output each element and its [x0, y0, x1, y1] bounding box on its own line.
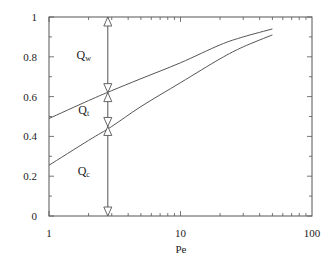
- tick-labels: 11010000.20.40.60.81: [23, 11, 321, 239]
- x-tick-label: 1: [46, 227, 52, 239]
- arrow-down-icon: [104, 207, 112, 216]
- y-tick-label: 0.2: [23, 170, 37, 182]
- y-tick-label: 0.4: [23, 130, 37, 142]
- annotation-labels: QwQtQc: [77, 48, 92, 179]
- annotation-qt: Qt: [78, 103, 90, 118]
- y-tick-label: 0: [32, 210, 38, 222]
- x-axis-label: Pe: [176, 243, 187, 255]
- arrow-down-icon: [104, 117, 112, 126]
- y-tick-label: 0.8: [23, 51, 37, 63]
- x-tick-label: 10: [175, 227, 187, 239]
- annotation-qw: Qw: [77, 48, 92, 63]
- x-tick-label: 100: [304, 227, 321, 239]
- chart: 11010000.20.40.60.81 QwQtQc Pe: [0, 0, 331, 263]
- arrow-up-icon: [104, 17, 112, 26]
- annotation-arrows: [104, 17, 112, 216]
- y-tick-label: 1: [32, 11, 38, 23]
- annotation-qc: Qc: [78, 164, 91, 179]
- y-tick-label: 0.6: [23, 91, 37, 103]
